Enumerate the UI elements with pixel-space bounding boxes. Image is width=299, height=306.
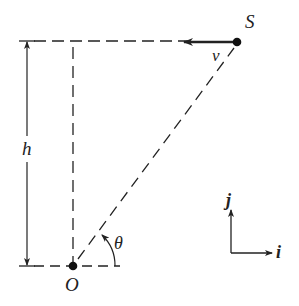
velocity-label: v <box>212 46 220 65</box>
line-of-sight-dashed <box>78 48 234 259</box>
kinematics-diagram: h S v O θ j i <box>0 0 299 306</box>
point-s-dot <box>233 38 242 47</box>
angle-label: θ <box>114 233 123 253</box>
unit-j-label: j <box>223 190 232 210</box>
height-label: h <box>22 138 32 159</box>
point-o-dot <box>69 262 78 271</box>
unit-i-label: i <box>276 242 281 262</box>
point-o-label: O <box>65 274 79 295</box>
diagram-canvas: h S v O θ j i <box>0 0 299 306</box>
point-s-label: S <box>245 11 255 32</box>
